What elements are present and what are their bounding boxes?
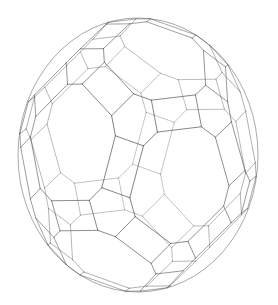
polyhedron-figure xyxy=(0,0,278,305)
wireframe-svg xyxy=(0,0,278,305)
figure-background xyxy=(0,0,278,305)
